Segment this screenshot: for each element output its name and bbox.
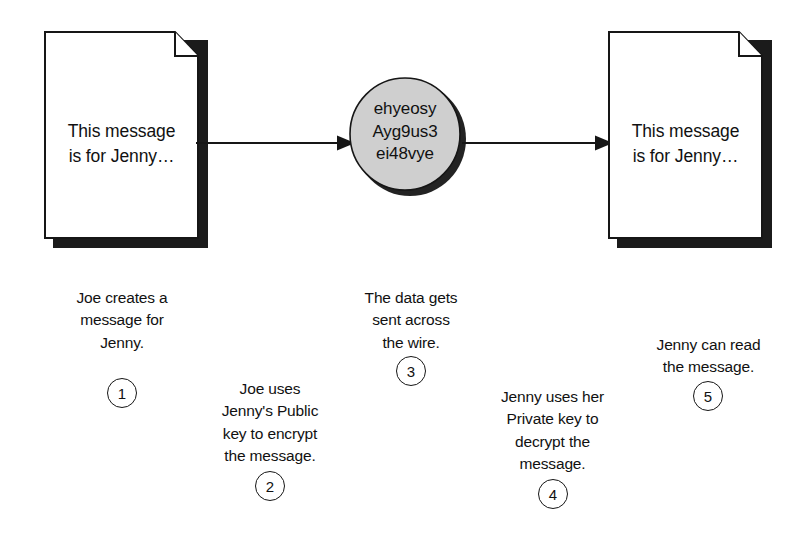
step-number-3: 3: [407, 363, 415, 380]
step-number-4: 4: [549, 486, 557, 503]
step-number-2: 2: [266, 478, 274, 495]
step-caption-1: Joe creates a message for Jenny.: [52, 287, 192, 354]
step-caption-4: Jenny uses her Private key to decrypt th…: [480, 386, 625, 476]
document-body-text: This message is for Jenny…: [44, 119, 199, 169]
step-badge-3: 3: [396, 356, 426, 386]
arrow-cipher-to-document: [462, 132, 614, 154]
step-caption-2: Joe uses Jenny's Public key to encrypt t…: [200, 378, 340, 468]
plaintext-document-recipient: This message is for Jenny…: [608, 31, 763, 239]
step-badge-2: 2: [255, 471, 285, 501]
plaintext-document-sender: This message is for Jenny…: [44, 31, 199, 239]
step-number-1: 1: [118, 385, 126, 402]
ciphertext-blob: ehyeosy Ayg9us3 ei48vye: [348, 75, 470, 199]
step-badge-4: 4: [538, 479, 568, 509]
ciphertext-body-text: ehyeosy Ayg9us3 ei48vye: [348, 75, 462, 193]
step-number-5: 5: [704, 388, 712, 405]
step-caption-3: The data gets sent across the wire.: [341, 287, 481, 354]
diagram-canvas: This message is for Jenny… ehyeosy Ayg9u…: [0, 0, 803, 557]
step-caption-5: Jenny can read the message.: [636, 334, 781, 379]
document-body-text: This message is for Jenny…: [608, 119, 763, 169]
arrow-document-to-cipher: [196, 132, 356, 154]
step-badge-1: 1: [107, 378, 137, 408]
step-badge-5: 5: [693, 381, 723, 411]
